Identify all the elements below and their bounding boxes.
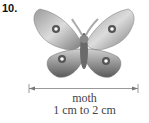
size-range-label: 1 cm to 2 cm — [10, 104, 149, 116]
figure-number: 10. — [2, 2, 17, 14]
moth-illustration-icon — [30, 5, 138, 83]
